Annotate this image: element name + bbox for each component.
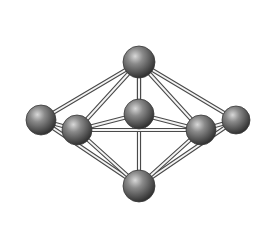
atom-apex-top — [123, 46, 155, 78]
atom-apex-bottom — [123, 170, 155, 202]
atom-equatorial-front-left — [62, 115, 92, 145]
atom-equatorial-back-center — [124, 99, 154, 129]
atom-equatorial-left — [26, 105, 56, 135]
atom-equatorial-right — [222, 106, 250, 134]
molecule-diagram — [0, 0, 279, 225]
atom-equatorial-front-right — [186, 115, 216, 145]
